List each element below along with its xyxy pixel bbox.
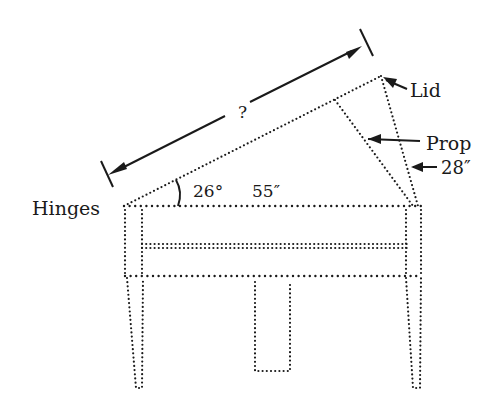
prop-arrowhead-icon (368, 134, 381, 144)
lid-arrowhead-icon (383, 77, 397, 88)
pedal-lyre (255, 282, 290, 371)
arrowhead-right-icon (346, 46, 362, 59)
right-leg (406, 278, 421, 388)
dimension-line-left (118, 116, 225, 170)
prop-length-arrowhead-icon (411, 162, 423, 172)
prop-line (335, 100, 413, 206)
prop-callout: Prop (368, 132, 471, 154)
dimension-right-tick (360, 29, 373, 56)
unknown-length-label: ? (238, 102, 247, 122)
prop-label: Prop (426, 132, 471, 154)
lid-label: Lid (410, 79, 441, 101)
prop-length-callout: 28″ (411, 157, 471, 178)
arrowhead-left-icon (108, 162, 127, 175)
hinges-label: Hinges (32, 197, 100, 219)
dimension-left-tick (101, 161, 113, 187)
lid-length-dimension: ? (101, 29, 373, 187)
left-leg (127, 278, 143, 388)
dimension-line-right (250, 51, 352, 102)
piano-lid-diagram: ? Lid Prop 28″ (0, 0, 498, 407)
angle-label: 26° (193, 181, 223, 201)
base-length-label: 55″ (252, 181, 280, 201)
prop-length-label: 28″ (441, 157, 471, 178)
piano-body (124, 206, 421, 388)
angle-arc (176, 180, 180, 206)
lid-callout: Lid (383, 77, 441, 101)
